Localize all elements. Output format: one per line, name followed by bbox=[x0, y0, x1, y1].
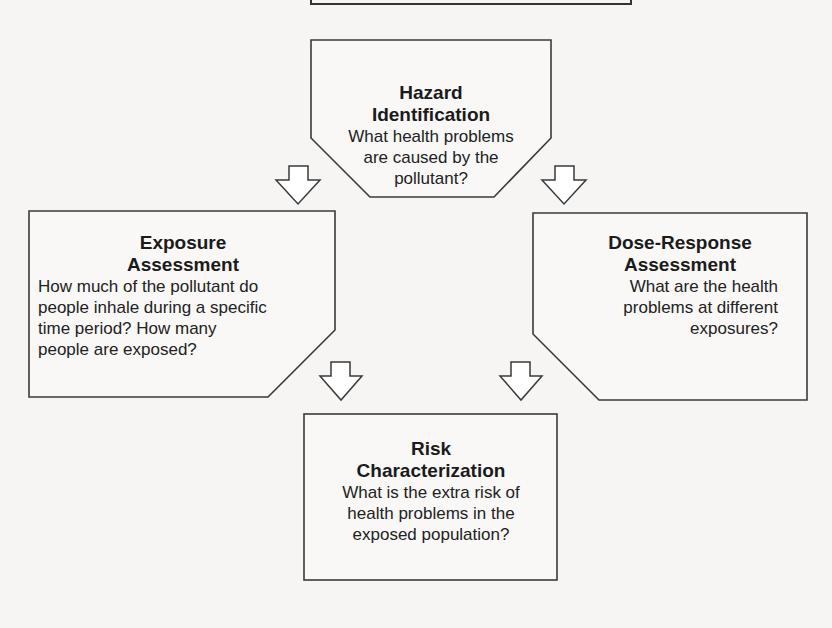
exposure-title-line1: Exposure bbox=[38, 232, 328, 254]
risk-title-line2: Characterization bbox=[308, 460, 554, 482]
arrow-down-icon bbox=[542, 166, 586, 204]
hazard-title: Hazard Identification bbox=[320, 82, 542, 126]
exposure-desc-line: people inhale during a specific bbox=[38, 297, 328, 318]
dose-title-line2: Assessment bbox=[560, 254, 800, 276]
risk-title: Risk Characterization bbox=[308, 438, 554, 482]
risk-desc-line: health problems in the bbox=[308, 503, 554, 524]
exposure-title: Exposure Assessment bbox=[38, 232, 328, 276]
arrow-down-icon bbox=[276, 166, 320, 204]
dose-desc-line: exposures? bbox=[560, 318, 778, 339]
risk-desc-line: exposed population? bbox=[308, 524, 554, 545]
arrow-down-icon bbox=[500, 362, 542, 400]
hazard-title-line1: Hazard bbox=[320, 82, 542, 104]
hazard-description: What health problems are caused by the p… bbox=[320, 126, 542, 189]
exposure-desc-line: time period? How many bbox=[38, 318, 328, 339]
hazard-identification-node: Hazard Identification What health proble… bbox=[320, 82, 542, 189]
risk-title-line1: Risk bbox=[308, 438, 554, 460]
arrow-down-icon bbox=[320, 362, 362, 400]
dose-desc-line: What are the health bbox=[560, 276, 778, 297]
dose-title-line1: Dose-Response bbox=[560, 232, 800, 254]
hazard-title-line2: Identification bbox=[320, 104, 542, 126]
exposure-description: How much of the pollutant do people inha… bbox=[38, 276, 328, 360]
hazard-desc-line: What health problems bbox=[320, 126, 542, 147]
dose-response-assessment-node: Dose-Response Assessment What are the he… bbox=[560, 232, 800, 339]
hazard-desc-line: are caused by the bbox=[320, 147, 542, 168]
dose-desc-line: problems at different bbox=[560, 297, 778, 318]
exposure-desc-line: How much of the pollutant do bbox=[38, 276, 328, 297]
top-cropped-box bbox=[311, 0, 631, 4]
exposure-title-line2: Assessment bbox=[38, 254, 328, 276]
dose-title: Dose-Response Assessment bbox=[560, 232, 800, 276]
risk-characterization-node: Risk Characterization What is the extra … bbox=[308, 438, 554, 545]
exposure-assessment-node: Exposure Assessment How much of the poll… bbox=[38, 232, 328, 360]
risk-description: What is the extra risk of health problem… bbox=[308, 482, 554, 545]
exposure-desc-line: people are exposed? bbox=[38, 339, 328, 360]
risk-desc-line: What is the extra risk of bbox=[308, 482, 554, 503]
hazard-desc-line: pollutant? bbox=[320, 168, 542, 189]
dose-description: What are the health problems at differen… bbox=[560, 276, 800, 339]
